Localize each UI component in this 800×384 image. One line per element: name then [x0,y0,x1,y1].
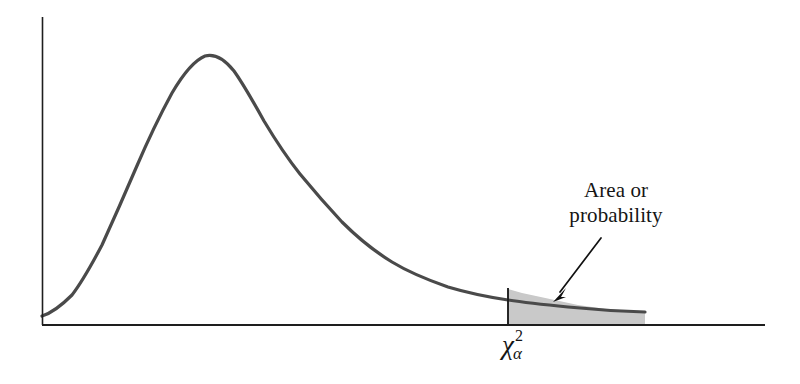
chi-superscript-2: 2 [515,328,523,344]
annotation-line-1: Area or [538,178,694,203]
chi-subscript-alpha: α [513,345,522,362]
chi-square-figure: Area or probability χ2α [0,0,800,384]
annotation-line-2: probability [538,203,694,228]
critical-value-label: χ2α [458,332,558,359]
area-probability-annotation: Area or probability [538,178,694,228]
annotation-arrow-shaft [560,238,601,292]
annotation-arrow-head [553,288,566,302]
